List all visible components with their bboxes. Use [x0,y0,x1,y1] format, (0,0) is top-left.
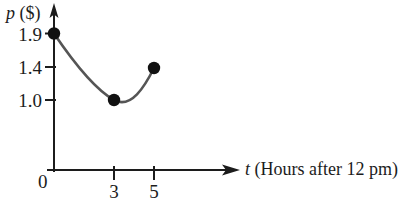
y-tick-label-1-0: 1.0 [4,91,42,110]
y-axis-unit: ($) [20,3,41,23]
y-axis-variable: p [6,3,15,23]
x-axis-unit: (Hours after 12 pm) [255,159,398,179]
price-curve [54,34,154,103]
x-axis-title: t (Hours after 12 pm) [245,160,398,178]
origin-label: 0 [38,172,48,191]
x-tick-label-3: 3 [99,182,129,201]
data-point-0-1.9 [48,27,60,39]
x-tick-label-5: 5 [139,182,169,201]
price-vs-time-graph-figure: p ($) 1.9 1.4 1.0 0 3 5 t (Hours after 1… [0,0,405,210]
y-tick-label-1-4: 1.4 [4,58,42,77]
data-point-5-1.4 [148,62,160,74]
data-point-3-1.0 [108,94,120,106]
y-axis-title: p ($) [6,4,41,22]
y-tick-label-1-9: 1.9 [4,25,42,44]
